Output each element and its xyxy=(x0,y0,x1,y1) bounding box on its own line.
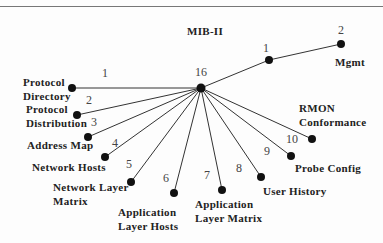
branch-edge xyxy=(174,88,201,193)
branch-node-label: Application xyxy=(118,206,176,218)
branch-node-number: 7 xyxy=(204,168,210,182)
branch-node-label: Distribution xyxy=(26,117,87,129)
branch-node xyxy=(287,152,295,160)
mgmt-label: Mgmt xyxy=(335,56,365,68)
branch-node-number: 4 xyxy=(112,136,118,150)
branch-edge xyxy=(131,88,201,182)
branch-edge xyxy=(201,88,291,156)
branch-node-label: Network Layer xyxy=(53,181,129,193)
diagram-svg: 12Mgmt1ProtocolDirectory2ProtocolDistrib… xyxy=(0,0,383,243)
branch-node-number: 10 xyxy=(286,132,298,146)
branch-node-label: Address Map xyxy=(27,139,93,151)
branch-node-number: 5 xyxy=(126,157,132,171)
branch-node xyxy=(218,186,226,194)
branch-node xyxy=(101,153,109,161)
branch-node xyxy=(308,135,316,143)
mgmt-node-number: 1 xyxy=(263,41,269,55)
branch-node-number: 6 xyxy=(163,171,169,185)
branch-node-label: Network Hosts xyxy=(32,161,106,173)
branch-node-label: Conformance xyxy=(299,116,366,128)
center-node-number: 16 xyxy=(195,65,207,79)
mgmt-edge xyxy=(201,60,269,88)
mgmt-edge xyxy=(269,44,341,60)
branch-node-label: Directory xyxy=(23,90,71,102)
branch-node-number: 9 xyxy=(264,144,270,158)
labels: 12Mgmt1ProtocolDirectory2ProtocolDistrib… xyxy=(23,23,366,232)
branch-node xyxy=(170,189,178,197)
branch-edge xyxy=(88,88,201,137)
branch-node-label: Protocol xyxy=(26,103,68,115)
branch-node-label: Layer Matrix xyxy=(195,212,262,224)
mgmt-node xyxy=(337,40,345,48)
mib-ii-title: MIB-II xyxy=(187,25,223,37)
rmon-mib-tree-diagram: 12Mgmt1ProtocolDirectory2ProtocolDistrib… xyxy=(0,0,383,243)
branch-node-label: Protocol xyxy=(23,76,65,88)
mgmt-node xyxy=(265,56,273,64)
center-node xyxy=(197,84,206,93)
branch-node-label: Probe Config xyxy=(295,162,361,174)
branch-node-label: Layer Hosts xyxy=(118,220,179,232)
branch-node-label: User History xyxy=(263,185,327,197)
mgmt-node-number: 2 xyxy=(338,23,344,37)
branch-node-number: 8 xyxy=(236,161,242,175)
branch-node-number: 3 xyxy=(91,115,97,129)
branch-node-label: Application xyxy=(195,198,253,210)
branch-node-label: RMON xyxy=(299,102,335,114)
branch-node-number: 1 xyxy=(102,66,108,80)
branch-node-label: Matrix xyxy=(53,195,88,207)
branch-node-number: 2 xyxy=(86,93,92,107)
branch-node xyxy=(257,173,265,181)
